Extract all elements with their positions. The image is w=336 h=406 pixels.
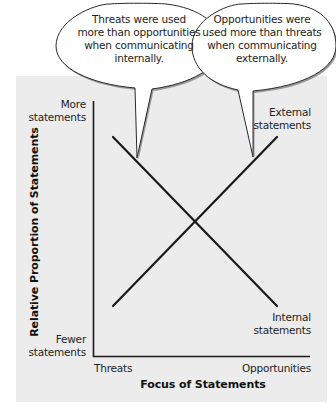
x-axis-left-label: Threats	[94, 362, 132, 375]
y-axis-top-label: More statements	[28, 98, 86, 124]
external-label-line-2: statements	[253, 119, 311, 132]
y-axis-title: Relative Proportion of Statements	[28, 127, 41, 337]
internal-label-line-2: statements	[253, 324, 311, 337]
y-axis-top-label-line-2: statements	[28, 111, 86, 124]
callout-external-line-2: used more than threats	[202, 26, 321, 39]
x-axis-title: Focus of Statements	[140, 378, 266, 391]
x-axis-right-label: Opportunities	[242, 362, 311, 375]
internal-label-line-1: Internal	[253, 311, 311, 324]
callout-text-internal: Threats were used more than opportunitie…	[78, 13, 201, 65]
callout-internal-line-3: when communicating	[78, 39, 201, 52]
y-axis-bottom-label-line-2: statements	[28, 346, 86, 359]
diagram-figure: Threats were used more than opportunitie…	[0, 0, 336, 406]
callout-text-external: Opportunities were used more than threat…	[202, 13, 321, 65]
external-statements-label: External statements	[253, 106, 311, 132]
callout-internal-line-1: Threats were used	[78, 13, 201, 26]
callout-internal-line-2: more than opportunities	[78, 26, 201, 39]
callout-internal-line-4: internally.	[78, 52, 201, 65]
external-label-line-1: External	[253, 106, 311, 119]
y-axis-top-label-line-1: More	[28, 98, 86, 111]
callout-external-line-4: externally.	[202, 52, 321, 65]
callout-external-line-3: when communicating	[202, 39, 321, 52]
y-axis-bottom-label: Fewer statements	[28, 333, 86, 359]
internal-statements-label: Internal statements	[253, 311, 311, 337]
callout-external-line-1: Opportunities were	[202, 13, 321, 26]
